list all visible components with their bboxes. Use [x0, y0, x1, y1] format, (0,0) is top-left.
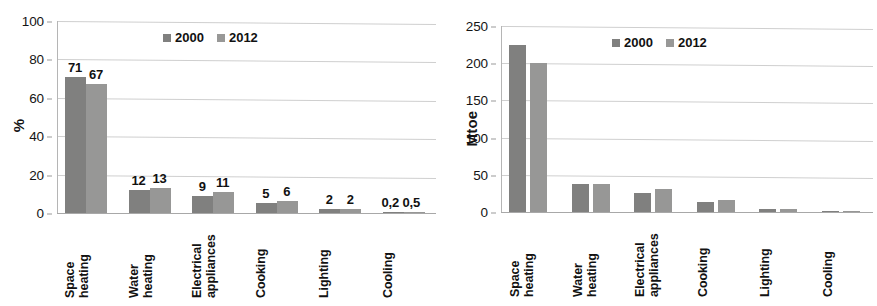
bar — [530, 63, 547, 212]
legend-swatch-icon — [163, 34, 171, 42]
x-axis-category-label: Cooling — [821, 251, 835, 297]
bar — [509, 45, 526, 212]
bar-data-label: 67 — [89, 67, 103, 82]
bar-data-label: 13 — [152, 171, 166, 186]
y-tick-label: 0 — [481, 205, 496, 220]
axis-baseline — [501, 212, 873, 213]
bar — [697, 202, 714, 212]
bar-data-label: 0,2 — [382, 195, 399, 210]
category-label-line1: Lighting — [317, 250, 331, 299]
bar — [843, 211, 860, 212]
category-label-line2: appliances — [204, 234, 218, 298]
legend-label: 2012 — [229, 30, 258, 45]
x-axis-category-label: Electricalappliances — [190, 234, 218, 298]
bar-data-label: 11 — [216, 175, 229, 190]
y-tick-label: 80 — [29, 52, 52, 67]
bar — [593, 184, 610, 212]
bar — [150, 188, 171, 213]
legend-swatch-icon — [666, 39, 674, 47]
category-label-line1: Electrical — [633, 242, 647, 297]
legend-label: 2012 — [678, 35, 707, 50]
plot-area-right — [501, 26, 873, 212]
gridline — [57, 136, 436, 140]
figure-two-panel-bar-charts: % 020406080100 7167121391156220,20,5 200… — [0, 0, 877, 306]
gridline — [501, 26, 873, 30]
legend-right: 20002012 — [612, 35, 707, 50]
category-label-line1: Cooling — [381, 252, 395, 298]
bar — [655, 189, 672, 212]
y-tick-label: 40 — [29, 129, 52, 144]
y-tick-label: 100 — [22, 14, 52, 29]
bar-data-label: 6 — [283, 184, 290, 199]
gridline — [501, 100, 873, 104]
legend-item-2012[interactable]: 2012 — [217, 30, 258, 45]
x-axis-category-label: Spaceheating — [63, 254, 91, 298]
bar — [780, 209, 797, 212]
bar — [759, 209, 776, 212]
bar — [572, 184, 589, 212]
x-axis-category-label: Waterheating — [571, 253, 599, 297]
y-axis-line — [57, 21, 58, 213]
legend-swatch-icon — [217, 34, 225, 42]
category-label-line2: appliances — [647, 233, 661, 297]
x-axis-category-label: Lighting — [317, 250, 331, 299]
y-tick-label: 0 — [37, 206, 52, 221]
category-label-line2: heating — [585, 253, 599, 297]
x-axis-category-label: Electricalappliances — [633, 233, 661, 297]
gridline — [501, 138, 873, 142]
bar — [340, 209, 361, 213]
plot-area-left: 7167121391156220,20,5 — [57, 21, 436, 213]
x-axis-category-label: Cooking — [696, 248, 710, 297]
bar — [404, 212, 425, 213]
gridline — [57, 21, 436, 25]
gridline — [57, 98, 436, 102]
category-label-line1: Electrical — [190, 243, 204, 298]
x-axis-category-label: Lighting — [758, 249, 772, 298]
bar — [129, 190, 150, 213]
legend-label: 2000 — [624, 35, 653, 50]
legend-label: 2000 — [175, 30, 204, 45]
y-tick-label: 250 — [466, 19, 496, 34]
category-label-line1: Space — [508, 261, 522, 297]
category-label-line1: Water — [571, 263, 585, 297]
axis-baseline — [57, 213, 436, 214]
x-axis-category-label: Cooling — [381, 252, 395, 298]
category-label-line1: Lighting — [758, 249, 772, 298]
y-axis-line — [501, 26, 502, 212]
y-tick-label: 60 — [29, 90, 52, 105]
gridline — [501, 63, 873, 67]
bar — [822, 211, 839, 212]
legend-item-2000[interactable]: 2000 — [163, 30, 204, 45]
bar — [634, 193, 651, 212]
x-axis-category-label: Spaceheating — [508, 253, 536, 297]
y-tick-label: 200 — [466, 56, 496, 71]
bar — [383, 212, 404, 213]
legend-left: 20002012 — [163, 30, 258, 45]
y-axis-title-percent: % — [10, 119, 27, 133]
bar — [213, 192, 234, 213]
category-label-line1: Water — [127, 264, 141, 298]
y-tick-label: 150 — [466, 93, 496, 108]
y-tick-label: 50 — [473, 167, 496, 182]
category-label-line1: Cooling — [821, 251, 835, 297]
bar — [718, 200, 735, 212]
bar — [65, 77, 86, 213]
category-label-line1: Space — [63, 262, 77, 298]
bar — [319, 209, 340, 213]
chart-panel-share: % 020406080100 7167121391156220,20,5 200… — [0, 0, 440, 306]
y-tick-label: 100 — [466, 130, 496, 145]
legend-item-2012[interactable]: 2012 — [666, 35, 707, 50]
bar-data-label: 2 — [326, 192, 333, 207]
x-axis-category-label: Cooking — [254, 249, 268, 298]
category-label-line1: Cooking — [254, 249, 268, 298]
bar — [86, 84, 107, 213]
bar — [256, 203, 277, 213]
gridline — [57, 59, 436, 63]
bar-data-label: 71 — [68, 60, 82, 75]
bar-data-label: 9 — [199, 179, 206, 194]
category-label-line2: heating — [77, 254, 91, 298]
legend-item-2000[interactable]: 2000 — [612, 35, 653, 50]
bar-data-label: 5 — [262, 186, 269, 201]
bar-data-label: 2 — [347, 192, 354, 207]
bar-data-label: 0,5 — [403, 195, 420, 210]
